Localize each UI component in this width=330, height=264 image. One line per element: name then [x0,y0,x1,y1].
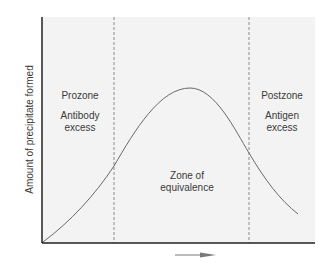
antigen-excess-label-2: excess [258,122,306,134]
arrow-right-icon [200,253,216,258]
equivalence-label-2: equivalence [155,182,219,194]
antigen-excess-label-1: Antigen [258,110,306,122]
equivalence-label-1: Zone of [155,170,219,182]
y-axis-label: Amount of precipitate formed [24,65,35,195]
postzone-label: Postzone [258,90,306,102]
antibody-excess-label-1: Antibody [56,110,104,122]
antibody-excess-label-2: excess [56,122,104,134]
prozone-label: Prozone [58,90,102,102]
